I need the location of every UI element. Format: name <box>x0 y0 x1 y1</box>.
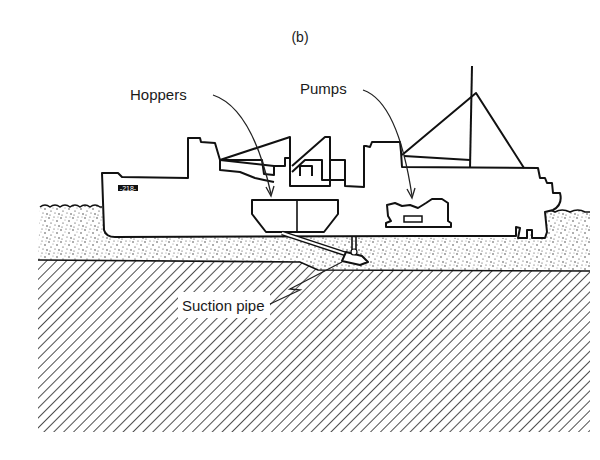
svg-text:Hoppers: Hoppers <box>130 86 187 103</box>
dredger-diagram: (b) -218- <box>0 0 600 460</box>
svg-text:Pumps: Pumps <box>300 80 347 97</box>
seabed-layer <box>38 260 590 432</box>
figure-caption: (b) <box>291 29 308 45</box>
hull-marking: -218- <box>118 185 138 192</box>
hoppers <box>252 200 338 232</box>
svg-text:Suction pipe: Suction pipe <box>182 297 265 314</box>
svg-text:-218-: -218- <box>120 185 137 192</box>
